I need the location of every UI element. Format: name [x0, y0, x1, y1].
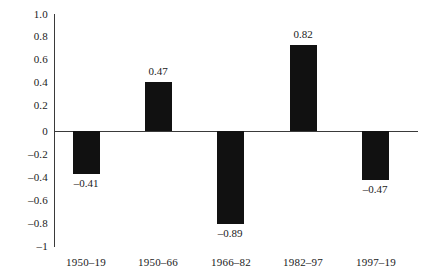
y-tick-label: 0.8	[4, 31, 48, 42]
x-category-label-4: 1982–97	[267, 256, 339, 268]
y-tick-label: 0.2	[4, 100, 48, 111]
bar-1950-19	[73, 131, 100, 174]
y-tick-label: –0.4	[4, 172, 48, 183]
value-label-1966-82: –0.89	[200, 228, 260, 239]
bar-1997-19	[362, 131, 389, 180]
y-tick-label: –0.6	[4, 195, 48, 206]
x-category-label-2: 1950–66	[122, 256, 194, 268]
value-label-1950-19: –0.41	[56, 178, 116, 189]
y-tick-label: 0	[4, 126, 48, 137]
x-category-label-3: 1966–82	[195, 256, 267, 268]
value-label-1950-66: 0.47	[128, 66, 188, 77]
y-tick-label: 0.6	[4, 54, 48, 65]
bar-1982-97	[290, 45, 317, 131]
y-tick-label: 0.4	[4, 77, 48, 88]
x-category-label-1: 1950–19	[50, 256, 122, 268]
bar-1950-66	[145, 82, 172, 131]
y-tick-label: 1.0	[4, 9, 48, 20]
y-tick-label: –0.8	[4, 218, 48, 229]
bar-1966-82	[217, 131, 244, 224]
y-tick-label: –0.2	[4, 149, 48, 160]
y-axis-tick-labels: 1.0 0.8 0.6 0.4 0.2 0 –0.2 –0.4 –0.6 –0.…	[0, 0, 48, 280]
y-tick-label: –1	[4, 241, 48, 252]
value-label-1982-97: 0.82	[273, 29, 333, 40]
bar-chart: 1.0 0.8 0.6 0.4 0.2 0 –0.2 –0.4 –0.6 –0.…	[0, 0, 432, 280]
value-label-1997-19: –0.47	[345, 184, 405, 195]
x-category-label-5: 1997–19	[340, 256, 412, 268]
